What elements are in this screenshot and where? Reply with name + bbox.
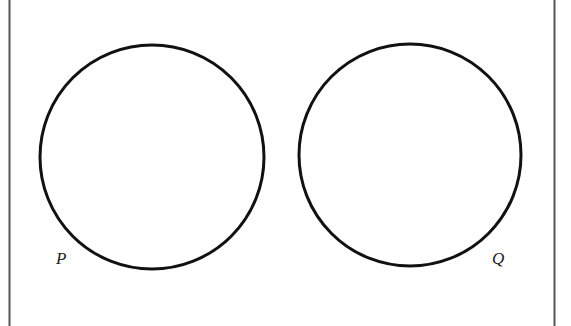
set-p-circle bbox=[40, 45, 264, 269]
venn-svg: P Q bbox=[0, 0, 571, 326]
set-q-circle bbox=[299, 44, 521, 266]
set-q-label: Q bbox=[492, 249, 504, 268]
venn-diagram: P Q bbox=[0, 0, 571, 326]
set-p-label: P bbox=[55, 249, 66, 268]
